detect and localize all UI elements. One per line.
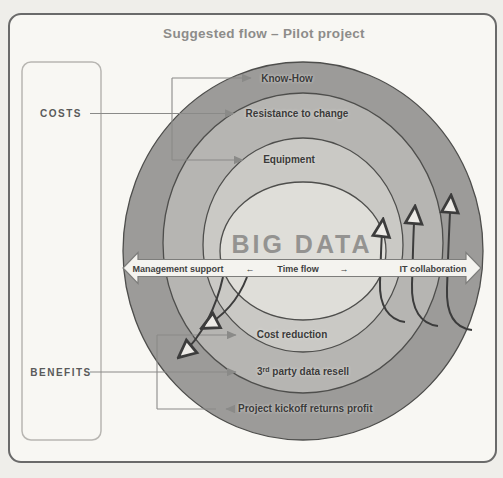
third-party-superscript: rd [263,366,270,373]
banner-management-support: Management support [132,264,223,274]
label-resistance-to-change: Resistance to change [246,108,349,119]
third-party-rest: party data resell [270,366,350,377]
big-data-label: BIG DATA [231,230,372,258]
banner-time-flow: Time flow [277,264,319,274]
costs-label: COSTS [40,108,82,119]
label-equipment: Equipment [263,154,315,165]
banner-right-arrow-glyph: → [340,264,349,274]
label-know-how: Know-How [261,73,313,84]
benefits-label: BENEFITS [30,367,91,378]
label-project-kickoff: Project kickoff returns profit [238,403,373,414]
figure-title: Suggested flow – Pilot project [163,26,365,41]
banner-left-arrow-glyph: ← [246,264,255,274]
label-third-party-data-resell: 3rd party data resell [257,366,349,378]
pilot-project-diagram: Suggested flow – Pilot project Managemen… [0,0,503,478]
label-cost-reduction: Cost reduction [257,329,328,340]
banner-it-collaboration: IT collaboration [399,264,466,274]
scanned-figure: Suggested flow – Pilot project Managemen… [0,0,503,478]
